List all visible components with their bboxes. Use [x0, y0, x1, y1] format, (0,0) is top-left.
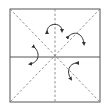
origami-diagram: [0, 0, 104, 108]
